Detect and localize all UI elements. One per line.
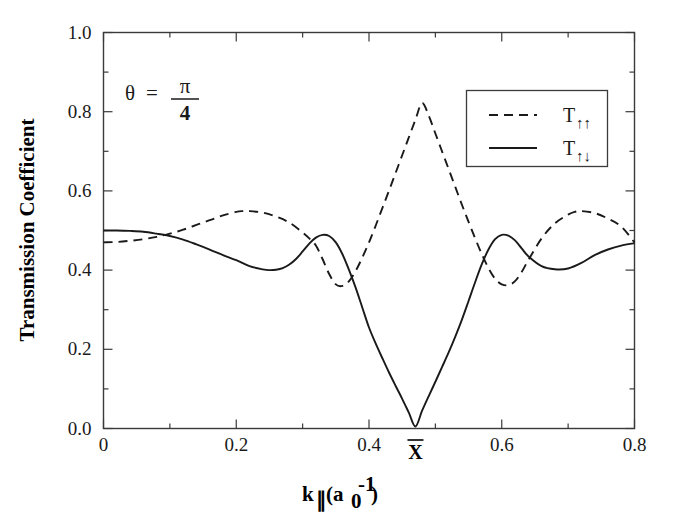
theta-annotation: θ = π 4 — [125, 74, 199, 125]
x-axis-title-paren-close: ) — [371, 482, 378, 506]
y-tick-label-3: 0.6 — [68, 180, 92, 201]
x-axis-title: k ∥ (a 0 -1 ) — [302, 472, 378, 513]
theta-symbol: θ — [125, 81, 135, 105]
x-tick-labels: 00.20.40.60.8 — [99, 434, 647, 455]
fraction-denominator: 4 — [180, 101, 191, 125]
x-axis-title-k: k — [302, 482, 314, 506]
x-tick-label-3: 0.6 — [490, 434, 514, 455]
y-tick-label-5: 1.0 — [68, 22, 92, 43]
y-tick-labels: 0.00.20.40.60.81.0 — [68, 22, 92, 439]
x-tick-label-1: 0.2 — [224, 434, 248, 455]
x-tick-label-2: 0.4 — [357, 434, 381, 455]
y-tick-label-1: 0.2 — [68, 338, 92, 359]
x-tick-label-4: 0.8 — [623, 434, 647, 455]
x-axis-title-paren-open: (a — [326, 482, 344, 506]
series-line-t-up-down — [104, 230, 635, 426]
transmission-coefficient-plot: 00.20.40.60.8 0.00.20.40.60.81.0 Transmi… — [0, 0, 673, 530]
y-tick-label-2: 0.4 — [68, 259, 92, 280]
y-tick-label-0: 0.0 — [68, 418, 92, 439]
equals-sign: = — [146, 81, 158, 105]
xbar-marker: X — [407, 440, 423, 463]
legend-sub-t-up-down: ↑↓ — [576, 147, 591, 164]
fraction-numerator: π — [180, 74, 191, 98]
figure-page: 00.20.40.60.8 0.00.20.40.60.81.0 Transmi… — [0, 0, 673, 530]
legend: T ↑↑ T ↑↓ — [467, 91, 608, 167]
legend-sub-t-up-up: ↑↑ — [576, 114, 591, 131]
legend-label-t-up-up: T — [563, 104, 575, 126]
y-tick-label-4: 0.8 — [68, 101, 92, 122]
xbar-label: X — [408, 441, 423, 463]
x-tick-label-0: 0 — [99, 434, 109, 455]
y-axis-title: Transmission Coefficient — [15, 118, 39, 341]
legend-label-t-up-down: T — [563, 137, 575, 159]
